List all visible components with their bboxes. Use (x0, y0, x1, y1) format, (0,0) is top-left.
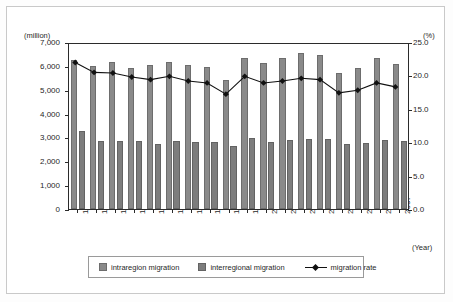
left-axis-tickmark (65, 210, 69, 211)
x-axis-tickmark (210, 210, 211, 213)
x-axis-tickmark (77, 210, 78, 213)
migration-rate-line-layer (69, 44, 408, 209)
migration-rate-marker (298, 75, 304, 81)
legend-item-interregional-migration: interregional migration (198, 263, 284, 272)
x-axis-tickmark (229, 210, 230, 213)
x-axis-tickmark (96, 210, 97, 213)
x-axis-tickmark (247, 210, 248, 213)
left-axis-tick: 5,000 (18, 86, 60, 95)
right-axis-tick: 10.0 (413, 138, 453, 147)
migration-rate-marker (392, 84, 398, 90)
migration-rate-line (75, 62, 395, 94)
right-axis-tick: 0.0 (413, 205, 453, 214)
left-axis-tick: 7,000 (18, 38, 60, 47)
right-axis-tick: 15.0 (413, 105, 453, 114)
x-axis-tickmark (323, 210, 324, 213)
x-axis-tickmark (134, 210, 135, 213)
x-axis-tickmark (172, 210, 173, 213)
migration-rate-marker (129, 74, 135, 80)
migration-rate-marker (91, 69, 97, 75)
migration-rate-marker (261, 80, 267, 86)
legend-label: intraregion migration (111, 263, 179, 272)
legend-label: interregional migration (210, 263, 284, 272)
migration-rate-marker (374, 80, 380, 86)
x-axis-tickmark (115, 210, 116, 213)
migration-rate-marker (110, 70, 116, 76)
migration-rate-marker (185, 78, 191, 84)
left-axis-tick: 3,000 (18, 133, 60, 142)
legend-item-intraregion-migration: intraregion migration (99, 263, 179, 272)
x-axis-tickmark (191, 210, 192, 213)
x-axis-unit-label: (Year) (412, 243, 432, 252)
x-axis-tickmark (380, 210, 381, 213)
x-axis-tickmark (266, 210, 267, 213)
legend-item-migration-rate: migration rate (305, 263, 377, 272)
square-swatch-icon (198, 263, 206, 271)
right-axis-tick: 25.0 (413, 38, 453, 47)
right-axis-tick: 5.0 (413, 172, 453, 181)
migration-rate-marker (166, 73, 172, 79)
migration-rate-marker (355, 87, 361, 93)
migration-rate-marker (279, 78, 285, 84)
left-axis-tick: 2,000 (18, 157, 60, 166)
left-axis-tick: 0 (18, 205, 60, 214)
migration-rate-marker (72, 60, 78, 66)
chart-legend: intraregion migration interregional migr… (88, 256, 364, 278)
chart-figure: (million) (%) (Year) 01,0002,0003,0004,0… (0, 0, 453, 302)
migration-rate-marker (148, 77, 154, 83)
x-axis-tickmark (285, 210, 286, 213)
left-axis-tick: 1,000 (18, 181, 60, 190)
legend-label: migration rate (331, 263, 377, 272)
migration-rate-marker (204, 80, 210, 86)
right-axis-tick: 20.0 (413, 71, 453, 80)
plot-area (68, 43, 409, 210)
square-swatch-icon (99, 263, 107, 271)
x-axis-tickmark (399, 210, 400, 213)
left-axis-tick: 4,000 (18, 110, 60, 119)
x-axis-tickmark (342, 210, 343, 213)
x-axis-tickmark (361, 210, 362, 213)
x-axis-tickmark (153, 210, 154, 213)
line-diamond-swatch-icon (305, 264, 327, 271)
x-axis-tickmark (304, 210, 305, 213)
left-axis-tick: 6,000 (18, 62, 60, 71)
